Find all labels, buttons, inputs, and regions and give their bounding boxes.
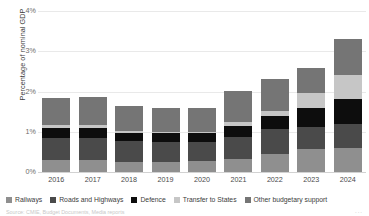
y-tick-label: 2% xyxy=(12,88,36,96)
bar-segment[interactable] xyxy=(297,108,325,127)
bar-segment[interactable] xyxy=(334,99,362,124)
bar-segment[interactable] xyxy=(297,93,325,108)
bar-segment[interactable] xyxy=(79,160,107,172)
plot-area xyxy=(38,0,366,173)
legend-label: Transfer to States xyxy=(183,196,237,203)
bar-segment[interactable] xyxy=(224,137,252,159)
legend-label: Railways xyxy=(15,196,42,203)
bar-segment[interactable] xyxy=(224,159,252,172)
x-tick-label: 2021 xyxy=(218,175,258,184)
legend-item[interactable]: Railways xyxy=(6,196,42,203)
bar-segment[interactable] xyxy=(79,125,107,128)
legend-item[interactable]: Roads and Highways xyxy=(50,196,123,203)
bar-segment[interactable] xyxy=(334,39,362,74)
x-tick-label: 2020 xyxy=(182,175,222,184)
bar-segment[interactable] xyxy=(224,91,252,122)
legend-item[interactable]: Transfer to States xyxy=(174,196,237,203)
bar-segment[interactable] xyxy=(188,161,216,172)
x-tick-label: 2019 xyxy=(146,175,186,184)
bar-segment[interactable] xyxy=(115,131,143,132)
bar-segment[interactable] xyxy=(297,127,325,149)
bar-segment[interactable] xyxy=(188,133,216,142)
bar-segment[interactable] xyxy=(152,162,180,172)
bar-segment[interactable] xyxy=(261,154,289,172)
x-tick-label: 2016 xyxy=(36,175,76,184)
bar-segment[interactable] xyxy=(188,108,216,131)
y-axis-label: Percentage of nominal GDP xyxy=(18,0,27,125)
bar-segment[interactable] xyxy=(261,116,289,129)
legend-swatch-icon xyxy=(50,197,56,203)
bar-segment[interactable] xyxy=(115,133,143,142)
bar-segment[interactable] xyxy=(79,138,107,160)
bar-segment[interactable] xyxy=(115,141,143,161)
x-tick-label: 2024 xyxy=(328,175,368,184)
legend-label: Defence xyxy=(140,196,165,203)
bar-segment[interactable] xyxy=(261,111,289,116)
bar-segment[interactable] xyxy=(224,126,252,137)
source-note: Source: CMIE, Budget Documents, Media re… xyxy=(6,209,306,215)
chart-legend: RailwaysRoads and HighwaysDefenceTransfe… xyxy=(6,194,366,205)
bar-segment[interactable] xyxy=(79,97,107,124)
bar-segment[interactable] xyxy=(42,125,70,128)
bar-segment[interactable] xyxy=(334,148,362,172)
bar-segment[interactable] xyxy=(42,98,70,125)
bar-segment[interactable] xyxy=(334,124,362,148)
bar-segment[interactable] xyxy=(42,160,70,172)
bar-segment[interactable] xyxy=(115,106,143,131)
bar-segment[interactable] xyxy=(188,142,216,161)
bar-segment[interactable] xyxy=(42,138,70,160)
legend-item[interactable]: Defence xyxy=(131,196,165,203)
legend-swatch-icon xyxy=(174,197,180,203)
bar-segment[interactable] xyxy=(297,68,325,93)
y-tick-label: 0% xyxy=(12,168,36,176)
bar-segment[interactable] xyxy=(42,128,70,138)
corner-mark: ... xyxy=(355,208,363,214)
bar-segment[interactable] xyxy=(334,75,362,99)
bar-segment[interactable] xyxy=(261,129,289,154)
legend-swatch-icon xyxy=(245,197,251,203)
x-tick-label: 2018 xyxy=(109,175,149,184)
y-tick-label: 3% xyxy=(12,47,36,55)
bar-segment[interactable] xyxy=(152,133,180,142)
legend-swatch-icon xyxy=(131,197,137,203)
bar-segment[interactable] xyxy=(152,132,180,133)
legend-label: Other budgetary support xyxy=(254,196,328,203)
bar-segment[interactable] xyxy=(79,128,107,138)
legend-swatch-icon xyxy=(6,197,12,203)
legend-label: Roads and Highways xyxy=(59,196,123,203)
bar-segment[interactable] xyxy=(152,108,180,132)
y-tick-label: 1% xyxy=(12,128,36,136)
y-tick-label: 4% xyxy=(12,7,36,15)
bar-segment[interactable] xyxy=(152,142,180,161)
x-tick-label: 2023 xyxy=(291,175,331,184)
x-tick-label: 2017 xyxy=(73,175,113,184)
x-tick-label: 2022 xyxy=(255,175,295,184)
bar-segment[interactable] xyxy=(188,132,216,133)
legend-item[interactable]: Other budgetary support xyxy=(245,196,328,203)
bar-segment[interactable] xyxy=(224,122,252,126)
bar-segment[interactable] xyxy=(115,162,143,172)
stacked-bar-chart: Percentage of nominal GDP 0%1%2%3%4% 201… xyxy=(0,0,369,216)
bar-segment[interactable] xyxy=(297,149,325,172)
bar-segment[interactable] xyxy=(261,79,289,110)
